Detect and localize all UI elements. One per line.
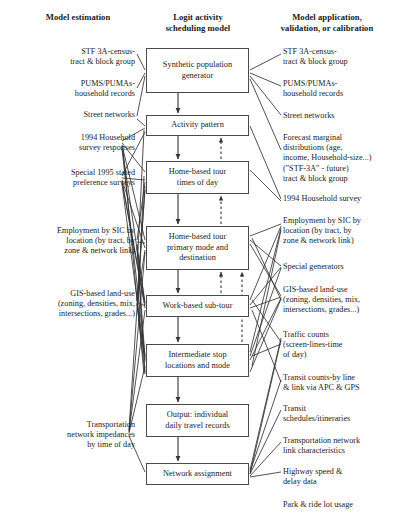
right-label-transit-schedules-itineraries: Transit schedules/itineraries xyxy=(283,404,395,424)
right-label-transit-counts: Transit counts-by line & link via APC & … xyxy=(283,373,395,393)
node-synthetic-population-generator[interactable]: Synthetic population generator xyxy=(146,48,249,93)
right-label-special-generators: Special generators xyxy=(283,262,395,272)
node-home-based-tour-primary-mode-and-destination[interactable]: Home-based tour primary mode and destina… xyxy=(146,226,249,270)
node-label: Network assignment xyxy=(163,469,232,479)
left-label-special-1995-stated-preference-surveys: Special 1995 stated preference surveys xyxy=(18,168,135,188)
right-label-1994-household-survey: 1994 Household survey xyxy=(283,194,395,204)
right-label-traffic-counts: Traffic counts (screen-lines-time of day… xyxy=(283,330,395,361)
right-label-highway-speed-delay-data: Highway speed & delay data xyxy=(283,467,395,487)
node-home-based-tour-times-of-day[interactable]: Home-based tour times of day xyxy=(146,161,249,194)
node-label: Output: individual daily travel records xyxy=(165,410,229,431)
left-label-street-networks: Street networks xyxy=(18,110,135,120)
flowchart-diagram: Model estimation Logit activity scheduli… xyxy=(0,0,395,521)
right-label-park-and-ride-lot-usage: Park & ride lot usage xyxy=(283,500,395,510)
right-label-pums-pumas: PUMS/PUMAs- household records xyxy=(283,79,395,99)
left-label-1994-household-survey-responses: 1994 Household survey responses xyxy=(18,133,135,153)
node-label: Home-based tour times of day xyxy=(169,167,227,188)
node-output-individual-daily-travel-records[interactable]: Output: individual daily travel records xyxy=(146,404,249,437)
left-label-transportation-network-impedances: Transportation network impedances by tim… xyxy=(12,420,135,451)
left-label-pums-pumas: PUMS/PUMAs- household records xyxy=(18,79,135,99)
node-label: Intermediate stop locations and mode xyxy=(165,350,230,371)
node-label: Work-based sub-tour xyxy=(163,301,233,311)
right-label-transportation-network-link-characteristics: Transportation network link characterist… xyxy=(283,436,395,456)
node-activity-pattern[interactable]: Activity pattern xyxy=(146,115,249,136)
node-label: Activity pattern xyxy=(171,120,224,130)
right-label-forecast-marginal-distributions: Forecast marginal distributions (age, in… xyxy=(283,133,395,184)
right-label-stf-3a-census: STF 3A-census- tract & block group xyxy=(283,47,395,67)
node-label: Synthetic population generator xyxy=(163,60,232,81)
node-label: Home-based tour primary mode and destina… xyxy=(167,232,228,263)
right-label-employment-by-sic: Employment by SIC by location (by tract,… xyxy=(283,216,395,247)
node-network-assignment[interactable]: Network assignment xyxy=(146,463,249,485)
left-label-gis-based-land-use: GIS-based land-use (zoning, densities, m… xyxy=(5,289,135,320)
right-label-gis-based-land-use: GIS-based land-use (zoning, densities, m… xyxy=(283,285,395,316)
node-intermediate-stop-locations-and-mode[interactable]: Intermediate stop locations and mode xyxy=(146,344,249,377)
node-work-based-sub-tour[interactable]: Work-based sub-tour xyxy=(146,295,249,317)
left-label-employment-by-sic: Employment by SIC by location (by tract,… xyxy=(5,226,135,257)
right-label-street-networks: Street networks xyxy=(283,111,395,121)
left-label-stf-3a-census: STF 3A-census- tract & block group xyxy=(18,47,135,67)
